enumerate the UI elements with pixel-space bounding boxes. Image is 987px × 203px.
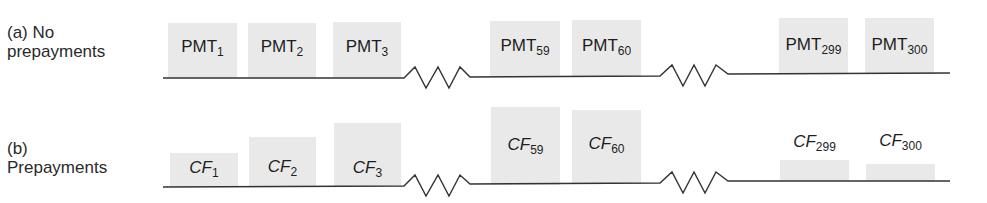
timeline-b [163,172,950,196]
timelines [0,0,987,203]
timeline-a [163,65,950,88]
